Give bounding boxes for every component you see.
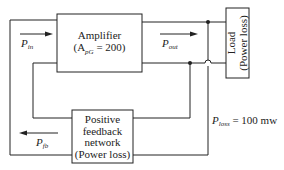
p-out-label: Pout	[162, 37, 178, 51]
load-subtitle: (Power loss)	[238, 8, 250, 78]
load-title: Load	[226, 8, 238, 78]
feedback-line4: (Power loss)	[72, 149, 133, 161]
p-in-label: Pin	[21, 37, 33, 51]
amplifier-gain: (ApG = 200)	[57, 42, 142, 57]
p-loss-annotation: Ploss = 100 mw	[212, 114, 277, 128]
amplifier-label: Amplifier (ApG = 200)	[57, 30, 142, 56]
arrowhead-left-icon	[19, 131, 27, 136]
feedback-line3: network	[72, 137, 133, 149]
feedback-label: Positive feedback network (Power loss)	[72, 114, 133, 160]
input-wire-inner	[33, 63, 72, 118]
p-fb-label: Pfb	[36, 136, 48, 150]
arrowhead-right-icon	[190, 32, 198, 37]
junction-dot-icon	[188, 61, 192, 65]
arrowhead-right-icon	[45, 32, 53, 37]
output-wire-bottom	[142, 60, 226, 63]
feedback-line1: Positive	[72, 114, 133, 126]
load-label: Load (Power loss)	[226, 8, 248, 78]
junction-dot-icon	[206, 20, 210, 24]
